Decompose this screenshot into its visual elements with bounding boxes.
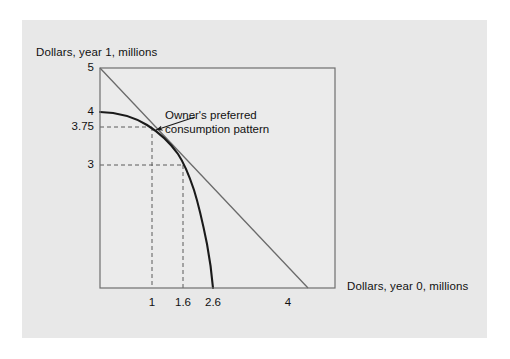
x-tick-label-4: 4 xyxy=(268,296,308,308)
figure-panel: Dollars, year 1, millions Dollars, year … xyxy=(22,20,487,338)
y-axis-title: Dollars, year 1, millions xyxy=(36,46,157,58)
x-tick-label-2-6: 2.6 xyxy=(193,296,233,308)
annotation-line-1: Owner's preferred xyxy=(165,109,269,123)
x-axis-title: Dollars, year 0, millions xyxy=(347,280,468,292)
y-tick-label-3: 3 xyxy=(62,158,94,170)
plot-background xyxy=(100,68,335,288)
y-tick-label-3-75: 3.75 xyxy=(48,120,94,132)
y-tick-label-4: 4 xyxy=(62,105,94,117)
chart-area: Dollars, year 1, millions Dollars, year … xyxy=(22,20,487,338)
annotation-line-2: consumption pattern xyxy=(165,123,269,137)
annotation-owners-preferred: Owner's preferred consumption pattern xyxy=(165,109,269,136)
y-tick-label-5: 5 xyxy=(62,61,94,73)
